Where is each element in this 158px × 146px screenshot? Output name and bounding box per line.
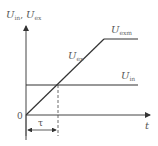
u-exm-label: Uexm: [111, 24, 132, 36]
origin-label: 0: [17, 111, 23, 121]
x-axis-label: t: [145, 120, 150, 131]
u-ex-ramp: [26, 39, 104, 115]
u-ex-label: Uex: [68, 50, 84, 62]
tau-label: τ: [38, 118, 43, 128]
voltage-time-diagram: Uin, Uex Uexm Uex Uin 0 t τ: [0, 0, 158, 146]
u-in-label: Uin: [121, 70, 135, 82]
y-axis-label: Uin, Uex: [6, 9, 42, 21]
